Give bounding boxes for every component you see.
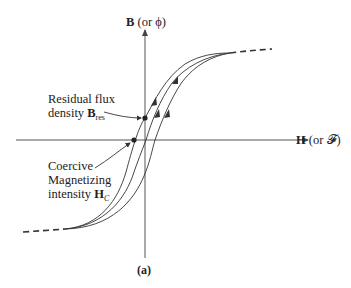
coercive-label-line1: Coercive <box>48 159 111 173</box>
arrow-up-icon <box>151 97 157 106</box>
coercive-subscript: C <box>104 194 109 203</box>
x-axis-label: H (or 𝓕) <box>296 133 341 147</box>
coercive-label: Coercive Magnetizing intensity HC <box>48 159 111 206</box>
arrow-up-icon <box>172 76 178 84</box>
residual-symbol: B <box>87 106 95 120</box>
x-axis-symbol: H <box>296 133 306 147</box>
hysteresis-diagram: B (or ϕ) H (or 𝓕) Residual flux density … <box>0 0 351 288</box>
coercive-label-line3: intensity HC <box>48 187 111 206</box>
residual-label-text: density <box>48 106 87 120</box>
residual-subscript: res <box>96 113 105 122</box>
residual-label: Residual flux density Bres <box>48 92 115 125</box>
y-axis-label: B (or ϕ) <box>126 15 166 29</box>
coercive-point <box>131 137 136 142</box>
y-axis-alt: (or ϕ) <box>137 15 165 29</box>
residual-label-line1: Residual flux <box>48 92 115 106</box>
saturation-dashed-upper <box>230 49 272 53</box>
direction-arrows <box>151 76 178 118</box>
coercive-label-line2: Magnetizing <box>48 173 111 187</box>
coercive-label-text: intensity <box>48 187 94 201</box>
coercive-symbol: H <box>94 187 104 201</box>
residual-label-line2: density Bres <box>48 106 115 125</box>
saturation-dashed-lower <box>23 229 65 232</box>
figure-caption: (a) <box>137 263 151 277</box>
y-axis-symbol: B <box>126 15 134 29</box>
x-axis-alt: (or 𝓕) <box>309 133 341 147</box>
residual-flux-point <box>142 115 147 120</box>
